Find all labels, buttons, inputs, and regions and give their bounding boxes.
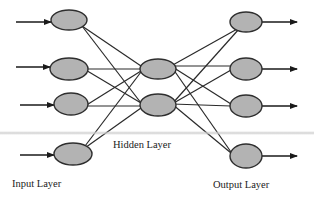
input-node-i2: [50, 58, 88, 80]
hidden-layer-label: Hidden Layer: [113, 140, 171, 151]
edge-i1-h1: [82, 26, 141, 66]
edge-h2-o3: [172, 104, 231, 106]
input-node-i3: [54, 93, 88, 115]
hidden-node-h2: [140, 94, 176, 116]
input-node-i1: [51, 10, 87, 30]
output-node-o1: [230, 12, 262, 32]
output-node-o3: [230, 95, 262, 117]
hidden-node-h1: [140, 59, 176, 79]
edge-h1-o4: [171, 66, 231, 152]
edge-h1-o1: [171, 28, 239, 66]
input-layer-label: Input Layer: [12, 179, 61, 190]
edge-i2-h2: [84, 69, 141, 103]
io-arrows: [16, 22, 297, 156]
edge-i3-h1: [85, 71, 141, 106]
neural-network-diagram: [0, 0, 314, 201]
scan-band-divider: [0, 131, 314, 135]
input-node-i4: [54, 143, 92, 165]
edge-i1-h2: [82, 26, 141, 103]
output-node-o2: [230, 58, 262, 80]
output-node-o4: [230, 144, 262, 168]
output-layer-label: Output Layer: [213, 180, 269, 191]
edge-h2-o4: [172, 104, 231, 153]
